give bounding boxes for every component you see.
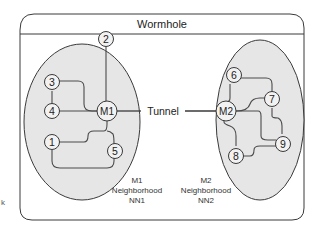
svg-text:NN1: NN1 — [129, 196, 146, 205]
svg-text:2: 2 — [103, 33, 109, 45]
node-1: 1 — [45, 135, 60, 150]
node-3: 3 — [45, 75, 60, 90]
svg-text:3: 3 — [49, 76, 55, 88]
node-6: 6 — [227, 68, 242, 83]
diagram-title: Wormhole — [137, 18, 187, 30]
svg-text:Neighborhood: Neighborhood — [112, 186, 162, 195]
svg-text:9: 9 — [280, 138, 286, 150]
node-8: 8 — [229, 149, 244, 164]
wormhole-diagram: Wormhole Tunnel 2 3 4 M1 — [0, 0, 315, 232]
svg-text:M1: M1 — [100, 106, 114, 117]
node-4: 4 — [45, 104, 60, 119]
node-m1: M1 — [97, 101, 117, 121]
svg-text:5: 5 — [112, 145, 118, 157]
node-9: 9 — [276, 137, 291, 152]
svg-text:1: 1 — [49, 136, 55, 148]
svg-text:NN2: NN2 — [198, 196, 215, 205]
tunnel-label: Tunnel — [147, 105, 179, 117]
node-m2: M2 — [216, 101, 236, 121]
svg-text:8: 8 — [233, 150, 239, 162]
neighborhood-nn1 — [24, 44, 140, 200]
svg-text:4: 4 — [49, 105, 55, 117]
node-5: 5 — [108, 144, 123, 159]
svg-text:7: 7 — [269, 93, 275, 105]
stray-margin-mark: k — [1, 198, 6, 207]
svg-text:Neighborhood: Neighborhood — [181, 186, 231, 195]
svg-text:M1: M1 — [131, 176, 143, 185]
svg-text:6: 6 — [231, 69, 237, 81]
svg-text:M2: M2 — [200, 176, 212, 185]
node-2: 2 — [99, 32, 114, 47]
node-7: 7 — [265, 92, 280, 107]
svg-text:M2: M2 — [219, 106, 233, 117]
